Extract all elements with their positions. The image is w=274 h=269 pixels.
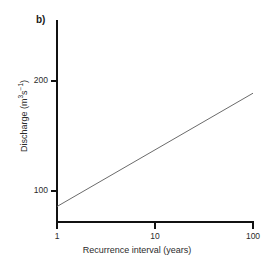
y-tick-100: [51, 190, 56, 192]
x-ticklabel-100: 100: [238, 231, 268, 241]
data-line-layer: [0, 0, 274, 269]
y-axis-title: Discharge (m3s−1): [17, 41, 29, 191]
y-axis-line: [56, 20, 58, 223]
figure-panel-b: b) 200 100 1 10 100 Recurrence interval …: [0, 0, 274, 269]
x-tick-100: [252, 223, 254, 229]
x-ticklabel-1: 1: [42, 231, 72, 241]
x-tick-1: [56, 223, 58, 229]
x-tick-10: [154, 223, 156, 229]
y-axis-title-sup-minus1: −1: [17, 83, 24, 90]
series-line-flood-frequency: [57, 93, 253, 206]
y-tick-200: [51, 80, 56, 82]
y-axis-title-base: Discharge (m: [19, 99, 29, 153]
y-axis-title-end: ): [19, 80, 29, 83]
x-axis-title: Recurrence interval (years): [0, 245, 274, 255]
y-axis-title-sup-3: 3: [17, 95, 24, 99]
panel-label: b): [36, 14, 45, 25]
y-axis-title-mid: s: [19, 90, 29, 95]
x-ticklabel-10: 10: [140, 231, 170, 241]
